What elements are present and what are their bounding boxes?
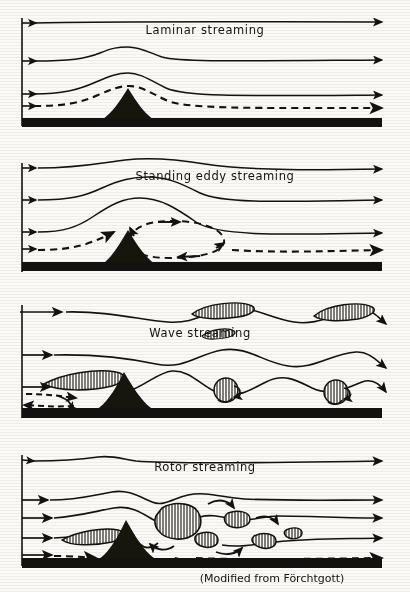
rotor-curl-arrow: [58, 396, 71, 410]
ground-surface: [22, 262, 382, 271]
panel-rotor: Rotor streaming: [22, 455, 382, 568]
lenticular-cloud: [192, 303, 254, 319]
inlet-arrows-laminar: [22, 23, 36, 106]
lowest-streamline: [232, 250, 382, 252]
ground-surface: [22, 408, 382, 418]
ground-surface: [22, 558, 382, 568]
rotor-cloud: [155, 504, 201, 539]
panel-laminar: Laminar streaming: [22, 18, 382, 127]
lenticular-cloud: [314, 304, 374, 321]
airflow-over-mountains-figure: Laminar streaming Standing eddy streamin…: [0, 0, 410, 592]
panel-standing-eddy: Standing eddy streaming: [22, 159, 382, 272]
inlet-arrows-rotor-lower: [22, 500, 52, 555]
streamline: [54, 349, 386, 368]
streamline: [34, 47, 382, 61]
lowest-streamline: [34, 86, 382, 108]
lowest-streamline: [54, 556, 96, 558]
rotor-cloud: [195, 532, 218, 547]
panel-title-rotor: Rotor streaming: [154, 460, 256, 474]
rotor-cloud: [252, 534, 276, 549]
ground-surface: [22, 118, 382, 127]
panel-title-laminar: Laminar streaming: [146, 23, 265, 37]
streamline: [54, 507, 170, 522]
rotor-cloud: [225, 511, 250, 527]
figure-caption: (Modified from Förchtgott): [200, 572, 345, 585]
rotor-cloud: [324, 380, 350, 404]
rotor-cloud: [214, 378, 240, 402]
lowest-streamline: [38, 232, 114, 250]
panel-title-standing-eddy: Standing eddy streaming: [136, 169, 295, 183]
streamline: [38, 198, 382, 234]
inlet-arrows-rotor: [22, 460, 34, 461]
panel-wave: Wave streaming: [20, 303, 386, 418]
panel-title-wave: Wave streaming: [149, 326, 251, 340]
standing-eddy-circulation: [130, 221, 224, 258]
inlet-arrows-standing-eddy: [22, 168, 36, 249]
rotor-cloud: [284, 528, 302, 539]
cap-cloud: [44, 371, 124, 390]
cap-cloud: [62, 529, 123, 545]
inlet-arrows-wave: [20, 312, 62, 387]
streamline: [34, 73, 382, 96]
streamline: [222, 538, 382, 546]
